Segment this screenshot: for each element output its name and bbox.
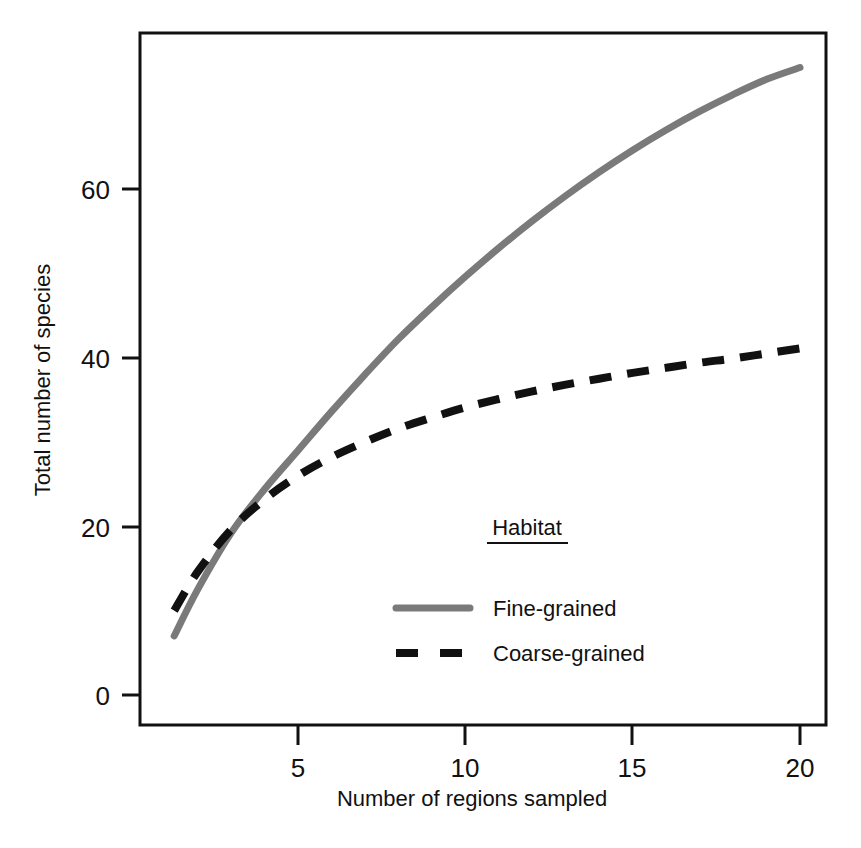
x-tick-label-5: 5 — [291, 753, 305, 783]
x-axis-ticks — [298, 725, 800, 745]
series-line-fine-grained — [174, 68, 800, 636]
legend-label-fine-grained: Fine-grained — [493, 596, 617, 621]
y-tick-label-60: 60 — [81, 175, 110, 205]
legend-item-coarse-grained: Coarse-grained — [396, 641, 645, 666]
species-accumulation-chart: 0 20 40 60 5 10 15 20 Total number of sp… — [0, 0, 861, 848]
chart-canvas: 0 20 40 60 5 10 15 20 Total number of sp… — [0, 0, 861, 848]
x-tick-label-10: 10 — [451, 753, 480, 783]
y-tick-label-0: 0 — [96, 681, 110, 711]
x-axis-title: Number of regions sampled — [337, 786, 607, 811]
y-tick-label-20: 20 — [81, 513, 110, 543]
x-tick-label-20: 20 — [786, 753, 815, 783]
y-tick-label-40: 40 — [81, 344, 110, 374]
legend: Habitat Fine-grained Coarse-grained — [396, 515, 645, 666]
y-axis-title: Total number of species — [30, 264, 55, 496]
plot-frame — [140, 33, 826, 725]
x-tick-label-15: 15 — [618, 753, 647, 783]
legend-title: Habitat — [492, 515, 562, 540]
legend-label-coarse-grained: Coarse-grained — [493, 641, 645, 666]
legend-item-fine-grained: Fine-grained — [396, 596, 617, 621]
y-axis-ticks — [122, 189, 140, 695]
